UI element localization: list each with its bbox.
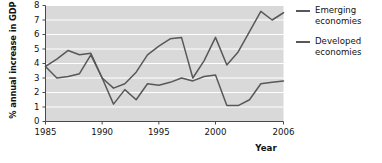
x-tick-label: 2006: [264, 128, 304, 137]
chart-figure: % annual increase in GDP Year Emerging e…: [0, 0, 382, 163]
x-tick-label: 1995: [139, 128, 179, 137]
y-tick-label: 1: [26, 103, 40, 112]
legend-line-developed-icon: [296, 41, 310, 43]
y-tick-label: 4: [26, 59, 40, 68]
legend-item-emerging: Emerging economies: [296, 5, 382, 27]
y-tick-label: 3: [26, 74, 40, 83]
legend-label-developed: Developed economies: [315, 36, 362, 58]
x-axis-title: Year: [236, 143, 296, 153]
y-tick-label: 6: [26, 30, 40, 39]
legend-item-developed: Developed economies: [296, 36, 382, 58]
x-tick-label: 1990: [82, 128, 122, 137]
chart-legend: Emerging economies Developed economies: [296, 5, 382, 67]
y-tick-label: 7: [26, 16, 40, 25]
y-tick-label: 0: [26, 117, 40, 126]
y-tick-label: 8: [26, 1, 40, 10]
x-tick-label: 1985: [26, 128, 66, 137]
y-tick-label: 5: [26, 45, 40, 54]
legend-label-emerging: Emerging economies: [315, 5, 362, 27]
legend-line-emerging-icon: [296, 10, 310, 12]
y-tick-label: 2: [26, 88, 40, 97]
x-tick-label: 2000: [196, 128, 236, 137]
